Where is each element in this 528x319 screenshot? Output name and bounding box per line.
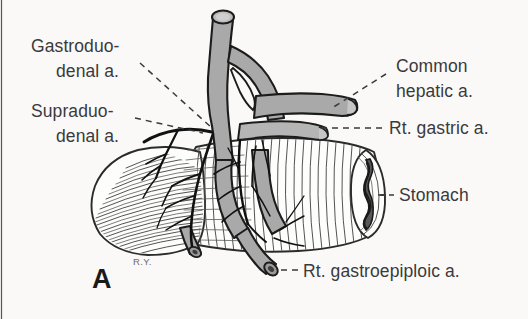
label-stomach: Stomach — [399, 185, 469, 205]
common-hepatic-artery — [254, 93, 357, 118]
label-gastroduodenal-line1: Gastroduo- — [31, 36, 120, 56]
leader-gastroduodenal — [140, 63, 212, 128]
anatomical-figure: Gastroduo- denal a. Supraduo- denal a. C… — [0, 0, 528, 319]
label-supraduodenal-line1: Supraduo- — [31, 101, 114, 121]
label-right-gastric: Rt. gastric a. — [389, 118, 489, 138]
label-gastroduodenal-line2: denal a. — [56, 61, 119, 81]
label-supraduodenal-line2: denal a. — [56, 126, 119, 146]
label-common-hepatic-line1: Common — [396, 56, 468, 76]
artist-signature: R.Y. — [133, 256, 152, 267]
label-common-hepatic-line2: hepatic a. — [396, 81, 473, 101]
right-gastric-artery — [238, 121, 328, 140]
panel-letter: A — [92, 264, 112, 294]
label-right-gastroepiploic: Rt. gastroepiploic a. — [303, 261, 460, 281]
